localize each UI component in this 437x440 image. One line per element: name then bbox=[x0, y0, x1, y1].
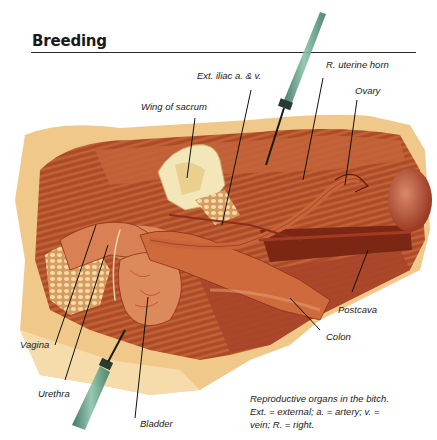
label-wing-of-sacrum: Wing of sacrum bbox=[141, 101, 207, 112]
label-urethra: Urethra bbox=[38, 388, 70, 399]
label-colon: Colon bbox=[326, 331, 351, 342]
label-ext-iliac: Ext. iliac a. & v. bbox=[197, 70, 261, 81]
ovary-bulge bbox=[388, 168, 432, 232]
label-bladder: Bladder bbox=[140, 418, 173, 429]
label-postcava: Postcava bbox=[338, 304, 377, 315]
label-r-uterine-horn: R. uterine horn bbox=[326, 59, 389, 70]
label-ovary: Ovary bbox=[355, 85, 380, 96]
caption-line-1: Reproductive organs in the bitch. bbox=[250, 392, 430, 405]
figure-caption: Reproductive organs in the bitch. Ext. =… bbox=[250, 392, 430, 431]
caption-line-3: vein; R. = right. bbox=[250, 418, 430, 431]
caption-line-2: Ext. = external; a. = artery; v. = bbox=[250, 405, 430, 418]
label-vagina: Vagina bbox=[20, 339, 49, 350]
